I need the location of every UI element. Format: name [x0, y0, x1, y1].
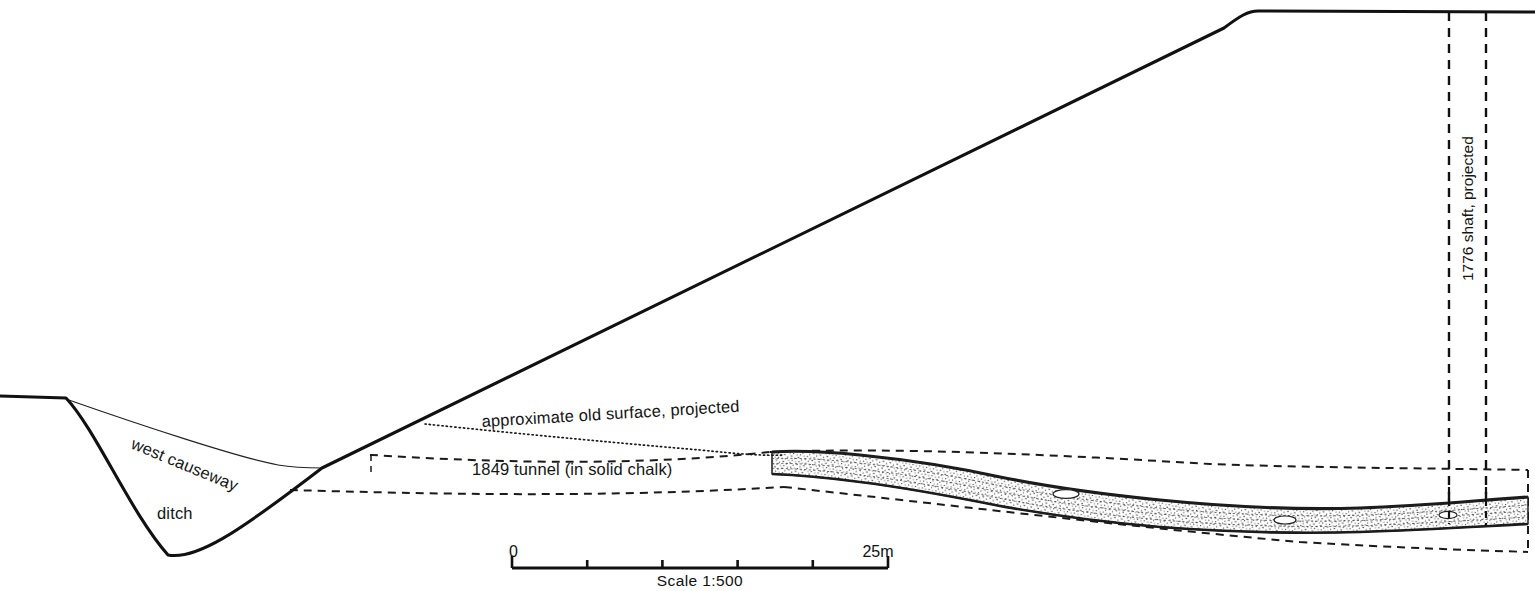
- tunnel-1849-lower-projection: [290, 487, 784, 494]
- label-1849-tunnel: 1849 tunnel (in solid chalk): [472, 460, 672, 478]
- scale-bar-end-label: 25m: [862, 543, 893, 560]
- approximate-old-surface-line: [425, 424, 784, 455]
- tunnel-1849-body-group: [772, 451, 1528, 533]
- section-drawing-figure: west causeway ditch approximate old surf…: [0, 0, 1535, 591]
- label-1776-shaft: 1776 shaft, projected: [1459, 136, 1476, 281]
- label-approximate-old-surface: approximate old surface, projected: [481, 397, 740, 430]
- tunnel-void-lobe-1: [1053, 490, 1079, 499]
- scale-bar: 0 25m Scale 1:500: [509, 543, 894, 589]
- scale-bar-start-label: 0: [509, 543, 518, 560]
- tunnel-void-lobe-2: [1274, 516, 1296, 524]
- scale-bar-caption: Scale 1:500: [657, 572, 743, 589]
- scale-bar-ticks: [512, 556, 888, 568]
- label-west-causeway: west causeway: [128, 434, 242, 495]
- tunnel-1849-excavated-body: [772, 451, 1528, 533]
- label-ditch: ditch: [157, 504, 193, 522]
- section-drawing-canvas: west causeway ditch approximate old surf…: [0, 0, 1535, 591]
